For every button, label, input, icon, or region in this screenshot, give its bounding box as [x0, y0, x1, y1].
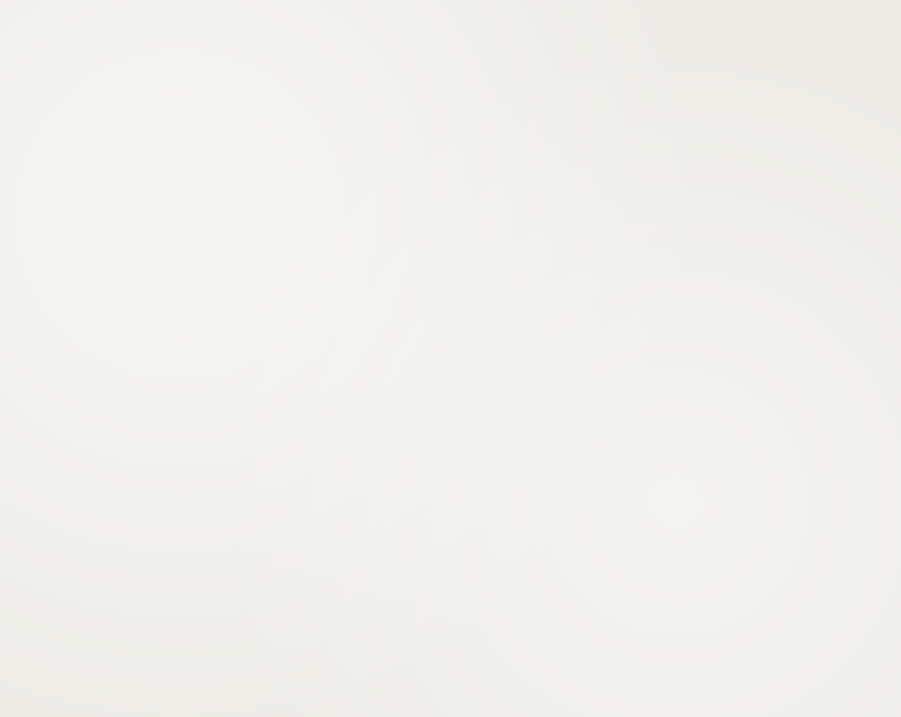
probability-plot: [0, 0, 901, 717]
chart-stage: [0, 0, 901, 717]
